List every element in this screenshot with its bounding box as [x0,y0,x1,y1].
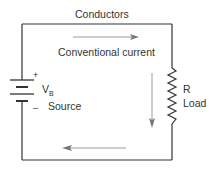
vb-label: VB [42,83,54,97]
resistor-label: R [183,83,191,95]
circuit-diagram: Conductors Conventional current + – VB S… [0,0,215,171]
arrow-top-right-icon [73,34,139,40]
conventional-current-label: Conventional current [58,46,155,58]
arrow-bottom-left-icon [62,145,126,151]
battery-icon [10,80,34,101]
plus-sign: + [33,70,38,80]
minus-sign: – [33,103,38,113]
arrow-right-down-icon [149,73,155,128]
source-label: Source [48,100,81,112]
resistor-icon [168,68,176,124]
vb-main: V [42,83,49,95]
conductors-label: Conductors [75,8,129,20]
vb-subscript: B [49,90,54,97]
load-label: Load [183,97,207,109]
